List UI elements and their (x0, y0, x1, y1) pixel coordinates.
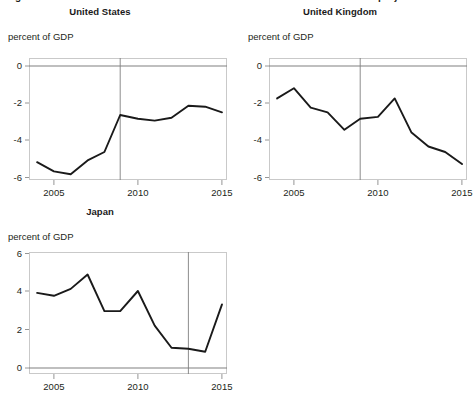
ytick-label-uk-3: -6 (242, 172, 262, 183)
xtick-label-uk-1: 2010 (358, 187, 398, 198)
xtick-label-uk-2: 2015 (442, 187, 473, 198)
ytick-label-us-2: -4 (2, 134, 22, 145)
ytick-label-us-1: -2 (2, 97, 22, 108)
xtick-label-jp-1: 2010 (118, 381, 158, 392)
ytick-label-us-0: 0 (2, 60, 22, 71)
ytick-label-uk-0: 0 (242, 60, 262, 71)
ytick-label-jp-2: 2 (2, 324, 22, 335)
xtick-label-us-1: 2010 (118, 187, 158, 198)
series-japan (0, 206, 237, 400)
ytick-label-uk-2: -4 (242, 134, 262, 145)
xtick-label-us-2: 2015 (202, 187, 242, 198)
xtick-label-uk-0: 2005 (274, 187, 314, 198)
clipped-text-left: Figure (6, 0, 37, 2)
ytick-label-uk-1: -2 (242, 97, 262, 108)
ytick-label-jp-3: 0 (2, 362, 22, 373)
clipped-text-middle: deficits (218, 0, 254, 2)
xtick-label-us-0: 2005 (34, 187, 74, 198)
panel-japan: Japan percent of GDP 6 4 2 0 2005 2010 2… (0, 206, 237, 400)
series-united-states (0, 6, 237, 200)
ytick-label-us-3: -6 (2, 172, 22, 183)
series-united-kingdom (240, 6, 473, 200)
panel-united-kingdom: United Kingdom percent of GDP 0 -2 -4 -6… (240, 6, 473, 200)
clipped-header-text: Figure deficits projections (0, 0, 473, 3)
panel-united-states: United States percent of GDP 0 -2 -4 -6 … (0, 6, 237, 200)
clipped-text-right: projections (378, 0, 433, 2)
xtick-label-jp-2: 2015 (202, 381, 242, 392)
xtick-label-jp-0: 2005 (34, 381, 74, 392)
ytick-label-jp-0: 6 (2, 248, 22, 259)
figure-root: Figure deficits projections United State… (0, 0, 473, 400)
ytick-label-jp-1: 4 (2, 285, 22, 296)
